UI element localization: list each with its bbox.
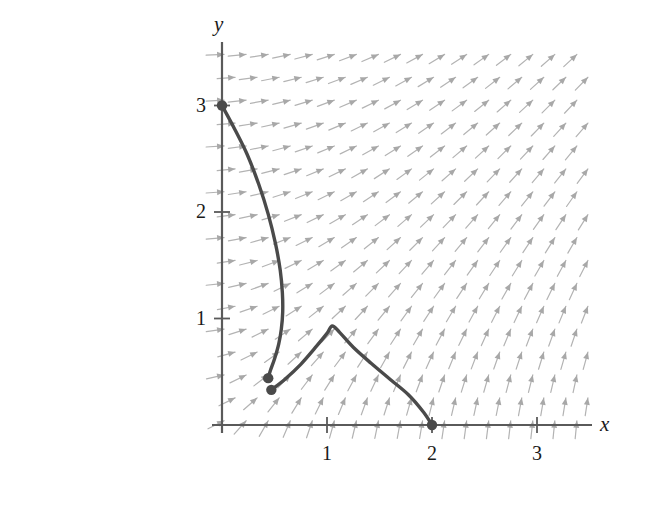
endpoint-markers [217, 100, 437, 430]
y-tick-label-1: 1 [176, 308, 206, 328]
x-tick-label-2: 2 [412, 443, 452, 463]
x-tick-label-3: 3 [517, 443, 557, 463]
y-tick-label-2: 2 [176, 201, 206, 221]
slope-field-figure: y x 1 2 3 1 2 3 [0, 0, 649, 522]
solution-curve-1-end-marker [263, 373, 273, 383]
x-tick-label-1: 1 [307, 443, 347, 463]
y-axis-label: y [214, 14, 223, 35]
solution-curve-2-start-marker [266, 385, 276, 395]
x-axis-label: x [600, 414, 609, 435]
solution-curve-1-start-marker [217, 100, 227, 110]
y-tick-label-3: 3 [176, 95, 206, 115]
solution-curve-2-end-marker [427, 420, 437, 430]
